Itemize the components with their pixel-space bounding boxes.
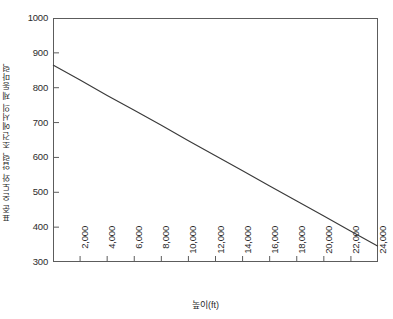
x-tick-label: 2,000 [80, 226, 90, 266]
chart-figure: 표준 온도와 압력 조건에서의 제동마력 높이(ft) 300400500600… [0, 0, 393, 319]
y-tick-label: 500 [14, 187, 48, 197]
y-tick-label: 1000 [14, 13, 48, 23]
x-tick-label: 16,000 [270, 226, 280, 266]
x-tick-label: 12,000 [216, 226, 226, 266]
x-axis-title: 높이(ft) [0, 300, 393, 310]
x-tick-label: 24,000 [378, 226, 388, 266]
x-tick-label: 20,000 [324, 226, 334, 266]
x-tick-label: 22,000 [351, 226, 361, 266]
x-tick-label: 4,000 [107, 226, 117, 266]
y-tick-label: 600 [14, 152, 48, 162]
x-tick-label: 8,000 [161, 226, 171, 266]
y-tick-label: 700 [14, 118, 48, 128]
y-tick-label: 900 [14, 48, 48, 58]
x-tick-label: 18,000 [297, 226, 307, 266]
y-tick-label: 300 [14, 257, 48, 267]
y-tick-label: 800 [14, 83, 48, 93]
x-tick-label: 10,000 [188, 226, 198, 266]
y-tick-label: 400 [14, 222, 48, 232]
x-tick-label: 14,000 [243, 226, 253, 266]
x-tick-label: 6,000 [134, 226, 144, 266]
